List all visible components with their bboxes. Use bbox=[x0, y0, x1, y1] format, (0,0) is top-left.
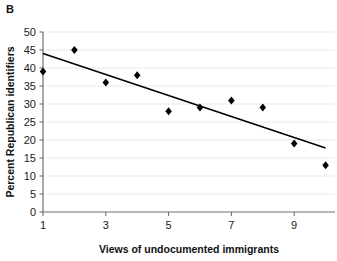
y-tick-label-45: 45 bbox=[24, 44, 36, 56]
x-tick-label-3: 3 bbox=[103, 219, 109, 231]
y-tick-label-40: 40 bbox=[24, 62, 36, 74]
data-point-7 bbox=[228, 96, 235, 104]
data-point-5 bbox=[165, 107, 172, 115]
x-axis-title: Views of undocumented immigrants bbox=[99, 243, 279, 255]
data-point-4 bbox=[134, 71, 141, 79]
data-points bbox=[40, 46, 329, 169]
data-point-1 bbox=[40, 68, 47, 76]
y-tick-label-5: 5 bbox=[30, 188, 36, 200]
y-tick-label-15: 15 bbox=[24, 152, 36, 164]
data-point-10 bbox=[322, 161, 329, 169]
x-tick-label-7: 7 bbox=[228, 219, 234, 231]
y-tick-label-10: 10 bbox=[24, 170, 36, 182]
x-axis: 13579 bbox=[40, 212, 335, 231]
y-tick-label-35: 35 bbox=[24, 80, 36, 92]
y-tick-label-30: 30 bbox=[24, 98, 36, 110]
gridlines bbox=[43, 32, 335, 194]
x-tick-label-5: 5 bbox=[166, 219, 172, 231]
x-tick-label-1: 1 bbox=[40, 219, 46, 231]
scatter-plot: 05101520253035404550 13579 Views of undo… bbox=[0, 0, 337, 261]
y-tick-label-20: 20 bbox=[24, 134, 36, 146]
data-point-3 bbox=[103, 78, 110, 86]
y-tick-label-50: 50 bbox=[24, 26, 36, 38]
y-axis: 05101520253035404550 bbox=[24, 26, 43, 218]
x-tick-label-9: 9 bbox=[291, 219, 297, 231]
data-point-8 bbox=[260, 104, 267, 112]
figure-panel-b: B 05101520253035404550 13579 Views of un… bbox=[0, 0, 337, 261]
data-point-9 bbox=[291, 140, 298, 148]
data-point-2 bbox=[71, 46, 78, 54]
y-tick-label-0: 0 bbox=[30, 206, 36, 218]
y-tick-label-25: 25 bbox=[24, 116, 36, 128]
y-axis-title: Percent Republican identifiers bbox=[4, 46, 16, 197]
